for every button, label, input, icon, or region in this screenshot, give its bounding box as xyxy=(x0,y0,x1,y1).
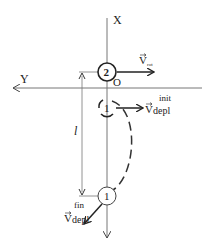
svg-text:init: init xyxy=(159,93,172,103)
svg-text:V: V xyxy=(64,212,72,224)
point-1-initial-label: 1 xyxy=(104,102,110,114)
point-2-label: 2 xyxy=(104,66,110,78)
v-depl-fin-label: fin V depl xyxy=(64,200,89,225)
svg-text:depl: depl xyxy=(153,105,170,116)
v-depl-init-label: init V depl xyxy=(145,93,172,116)
y-axis-label: Y xyxy=(20,72,29,86)
svg-text:depl: depl xyxy=(72,214,89,225)
point-1-final-label: 1 xyxy=(104,190,110,202)
x-axis-label: X xyxy=(113,13,122,27)
trajectory-arc xyxy=(112,101,132,190)
svg-text:rot: rot xyxy=(147,62,153,67)
v-rot-label: V rot xyxy=(139,54,153,68)
distance-label: l xyxy=(74,124,78,138)
svg-text:fin: fin xyxy=(74,200,84,210)
svg-text:V: V xyxy=(139,54,147,66)
svg-text:V: V xyxy=(145,103,153,115)
kinematics-diagram: X Y O l 2 V rot 1 init V depl 1 fin V de… xyxy=(0,0,212,241)
